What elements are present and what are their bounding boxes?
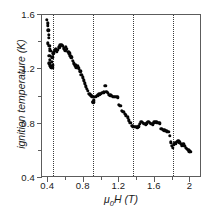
y-tick-major bbox=[37, 14, 42, 15]
x-axis-title: μ0H (T) bbox=[41, 193, 201, 208]
figure-container: 0.40.81.21.62 0.40.81.21.6 μ0H (T) ignit… bbox=[0, 0, 215, 217]
plot-area bbox=[41, 14, 201, 177]
y-tick-minor bbox=[38, 41, 41, 42]
data-point bbox=[189, 150, 192, 153]
data-point bbox=[158, 122, 161, 125]
x-tick-label: 0.8 bbox=[76, 180, 90, 191]
data-point bbox=[51, 55, 54, 58]
x-tick-minor bbox=[101, 177, 102, 180]
x-tick-minor bbox=[65, 177, 66, 180]
x-tick-label: 0.4 bbox=[40, 180, 54, 191]
x-tick-label: 1.2 bbox=[111, 180, 125, 191]
data-point bbox=[168, 134, 171, 137]
y-tick-major bbox=[37, 177, 42, 178]
y-tick-major bbox=[37, 123, 42, 124]
data-point bbox=[92, 99, 95, 102]
data-point bbox=[47, 36, 50, 39]
data-point bbox=[46, 24, 49, 27]
annotation-vline-4 bbox=[173, 15, 174, 176]
annotation-vline-3 bbox=[133, 15, 134, 176]
x-tick-minor bbox=[136, 177, 137, 180]
x-axis-title-main: H (T) bbox=[114, 193, 138, 205]
x-tick-label: 1.6 bbox=[147, 180, 161, 191]
y-tick-minor bbox=[38, 96, 41, 97]
y-tick-major bbox=[37, 68, 42, 69]
y-tick-minor bbox=[38, 150, 41, 151]
y-axis-title: ignition temperature (K) bbox=[15, 9, 27, 179]
data-point bbox=[116, 96, 119, 99]
data-point bbox=[103, 84, 106, 87]
data-point bbox=[171, 146, 174, 149]
x-tick-label: 2 bbox=[187, 180, 192, 191]
data-point bbox=[119, 104, 122, 107]
annotation-vline-1 bbox=[53, 15, 54, 176]
data-point bbox=[47, 29, 50, 32]
data-point bbox=[51, 64, 54, 67]
x-tick-minor bbox=[172, 177, 173, 180]
